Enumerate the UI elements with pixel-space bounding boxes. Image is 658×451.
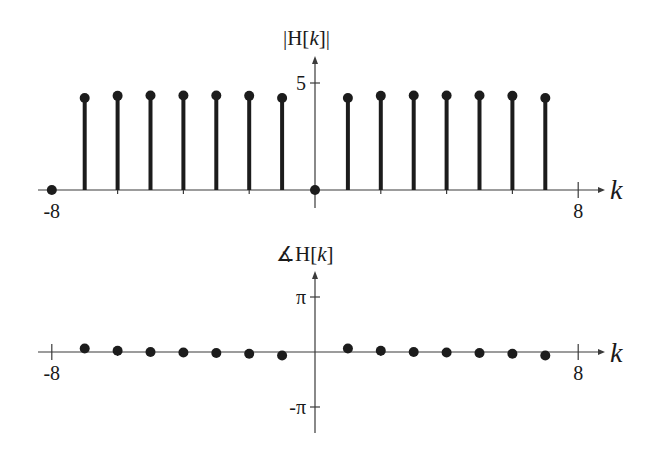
y-tick-label: 5 [296,72,306,94]
phase-marker [178,348,188,358]
phase-marker [507,349,517,359]
stem-marker [47,185,57,195]
x-tick-label: -8 [43,362,60,384]
figure: |H[k]| k -885 ∡H[k] k -88π-π [0,0,658,451]
magnitude-stems [47,90,551,195]
stem-marker [178,90,188,100]
magnitude-axes [38,56,605,208]
y-tick-label: -π [289,396,306,418]
phase-marker [277,351,287,361]
stem-marker [277,93,287,103]
stem-marker [507,91,517,101]
phase-marker [376,346,386,356]
chart-canvas: |H[k]| k -885 ∡H[k] k -88π-π [0,0,658,451]
phase-marker [442,348,452,358]
stem-marker [376,91,386,101]
x-tick-label: 8 [573,200,583,222]
stem-marker [343,93,353,103]
y-axis-arrowhead-icon [312,271,318,279]
x-tick-label: 8 [573,362,583,384]
phase-axes [38,271,605,433]
phase-marker [343,343,353,353]
stem-marker [310,185,320,195]
stem-marker [146,90,156,100]
x-axis-arrowhead-icon [598,187,605,193]
magnitude-plot: |H[k]| k -885 [38,26,623,222]
phase-marker [409,347,419,357]
stem-marker [409,90,419,100]
magnitude-x-axis-label: k [610,174,623,205]
x-axis-arrowhead-icon [598,349,605,355]
phase-marker [80,343,90,353]
x-tick-label: -8 [43,200,60,222]
phase-marker [113,346,123,356]
stem-marker [244,91,254,101]
stem-marker [113,91,123,101]
phase-marker [244,349,254,359]
stem-marker [540,93,550,103]
phase-plot: ∡H[k] k -88π-π [38,242,623,433]
phase-marker [211,348,221,358]
phase-x-axis-label: k [610,337,623,368]
stem-marker [442,90,452,100]
phase-marker [146,347,156,357]
y-tick-label: π [296,286,306,308]
phase-marker [475,348,485,358]
stem-marker [211,90,221,100]
stem-marker [80,93,90,103]
stem-marker [475,90,485,100]
phase-title: ∡H[k] [276,242,334,266]
magnitude-tick-labels: -885 [43,72,583,222]
phase-marker [540,351,550,361]
magnitude-title: |H[k]| [283,26,330,50]
y-axis-arrowhead-icon [312,56,318,64]
